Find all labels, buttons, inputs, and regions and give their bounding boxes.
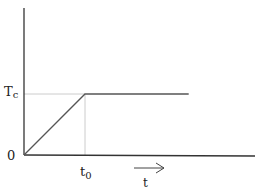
arrow-right-icon	[134, 163, 164, 173]
origin-label: 0	[7, 148, 15, 163]
chart: 0 Tc t0 t	[0, 0, 262, 193]
y-tick-label-tc: Tc	[4, 84, 19, 100]
series-line-temperature	[24, 94, 189, 155]
x-axis-label: t	[143, 176, 148, 190]
x-tick-label-t0: t0	[80, 164, 92, 181]
x-axis	[24, 155, 255, 156]
